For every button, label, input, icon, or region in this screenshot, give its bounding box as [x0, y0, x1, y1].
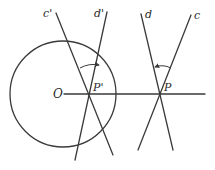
label-c-prime: c' — [43, 7, 52, 20]
label-p: P — [163, 81, 172, 94]
label-p-prime: P' — [92, 81, 103, 94]
label-o: O — [53, 87, 63, 101]
inversion-diagram: c' d' d c O P' P — [0, 0, 215, 170]
angle-arc-p-prime — [80, 64, 99, 68]
angle-arc-p — [155, 66, 171, 68]
label-d-prime: d' — [94, 7, 104, 20]
label-d: d — [145, 8, 152, 21]
line-c-prime — [56, 13, 113, 155]
label-c: c — [194, 9, 200, 22]
